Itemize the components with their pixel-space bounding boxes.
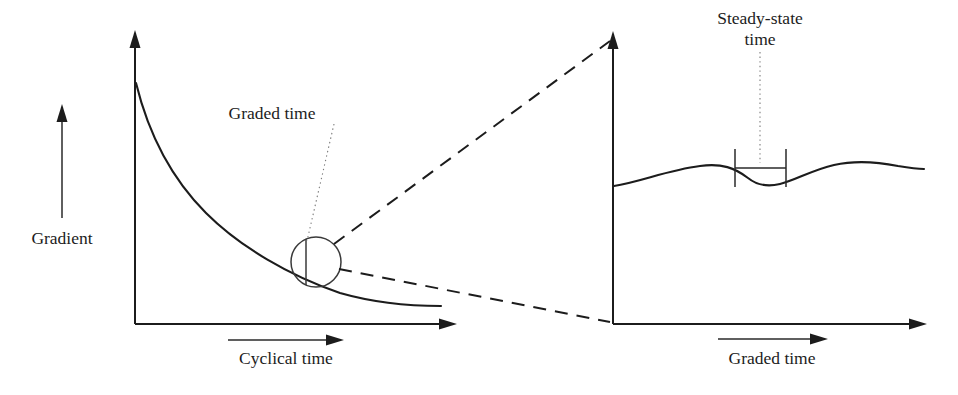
graded-time-arrow-icon — [810, 334, 828, 345]
gradient-arrow-icon — [57, 104, 68, 122]
figure-root: Graded time Gradient Cyclical time — [0, 0, 958, 395]
magnification-leader-lower — [339, 269, 610, 322]
right-panel: Steady-state time Graded time — [608, 8, 928, 368]
cyclical-time-axis-label: Cyclical time — [239, 348, 333, 368]
right-x-axis — [613, 319, 927, 330]
magnification-connectors — [334, 41, 610, 322]
graded-time-label: Graded time — [229, 103, 316, 123]
gradient-axis-label: Gradient — [31, 228, 92, 248]
left-panel: Graded time Gradient Cyclical time — [31, 30, 457, 368]
left-y-axis — [130, 30, 141, 324]
graded-time-direction-arrow — [718, 334, 828, 345]
steady-state-label-line1: Steady-state — [717, 8, 803, 28]
gradient-direction-arrow — [57, 104, 68, 218]
left-x-axis — [135, 319, 457, 330]
magnification-leader-upper — [334, 41, 610, 244]
right-x-axis-arrow-icon — [909, 319, 927, 330]
steady-state-bracket — [735, 149, 786, 187]
left-y-axis-arrow-icon — [130, 30, 141, 48]
cyclical-time-arrow-icon — [326, 335, 344, 346]
right-y-axis-arrow-icon — [608, 31, 619, 49]
diagram-canvas: Graded time Gradient Cyclical time — [0, 0, 958, 395]
cyclical-time-direction-arrow — [228, 335, 344, 346]
right-y-axis — [608, 31, 619, 324]
left-x-axis-arrow-icon — [439, 319, 457, 330]
graded-time-leader — [307, 124, 334, 241]
magnifier-circle — [291, 237, 341, 287]
steady-state-label-line2: time — [744, 29, 775, 49]
graded-time-axis-label: Graded time — [729, 348, 816, 368]
steady-state-curve — [614, 162, 924, 186]
